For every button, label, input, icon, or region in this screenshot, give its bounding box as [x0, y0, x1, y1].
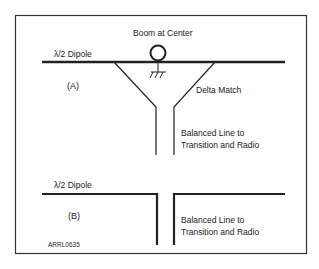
boom-label: Boom at Center: [133, 28, 193, 38]
panel-tag-a: (A): [67, 81, 79, 91]
dipole-label-b: λ/2 Dipole: [54, 180, 92, 190]
feed-label-a-line2: Transition and Radio: [181, 140, 259, 150]
delta-match-left-leg: [114, 62, 156, 155]
delta-match-label: Delta Match: [196, 85, 242, 95]
panel-a: λ/2 Dipole Boom at Center (A) Delta Matc…: [42, 28, 285, 155]
dipole-label-a: λ/2 Dipole: [54, 49, 92, 59]
panel-tag-b: (B): [68, 211, 80, 221]
panel-b: λ/2 Dipole (B) Balanced Line to Transiti…: [42, 180, 285, 245]
feed-label-a-line1: Balanced Line to: [181, 128, 245, 138]
feed-label-b-line1: Balanced Line to: [181, 215, 245, 225]
dipole-element-b-left: [42, 194, 157, 245]
delta-match-diagram: λ/2 Dipole Boom at Center (A) Delta Matc…: [0, 0, 319, 269]
figure-id: ARRL0635: [48, 241, 80, 248]
boom-icon: [151, 46, 166, 61]
feed-label-b-line2: Transition and Radio: [181, 227, 259, 237]
ground-icon: [150, 62, 166, 78]
